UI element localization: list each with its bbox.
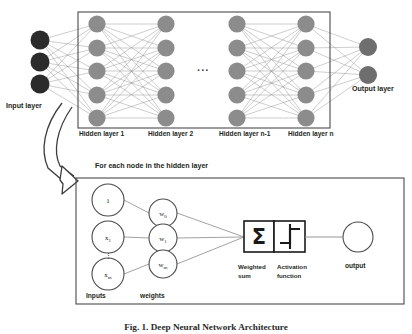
detail-output-node bbox=[343, 222, 373, 252]
hidden-layer-n-1-label: Hidden layer n-1 bbox=[219, 130, 270, 137]
vertical-dots: ⋮ bbox=[105, 252, 112, 260]
layers-ellipsis: ... bbox=[197, 61, 209, 73]
activation-label-line2: function bbox=[277, 273, 301, 280]
detail-edges-group bbox=[124, 200, 244, 274]
detail-input-node-0-label: 1 bbox=[106, 197, 110, 205]
sum-activation-block: Σ bbox=[244, 221, 305, 252]
weighted-sum-label-line2: sum bbox=[238, 273, 251, 280]
detail-output-label: output bbox=[345, 262, 366, 269]
output-layer-label: Output layer bbox=[352, 86, 394, 94]
weights-label: weights bbox=[140, 292, 165, 299]
callout-arrow bbox=[44, 103, 78, 194]
input-layer-label: Input layer bbox=[6, 103, 42, 111]
weighted-sum-label-line1: Weighted bbox=[238, 264, 266, 271]
detail-box-title: For each node in the hidden layer bbox=[95, 163, 208, 171]
activation-label-line1: Activation bbox=[277, 264, 307, 271]
hidden-layer-2-label: Hidden layer 2 bbox=[148, 130, 193, 137]
inputs-label: Inputs bbox=[86, 292, 106, 299]
sigma-icon: Σ bbox=[252, 225, 266, 249]
figure-caption: Fig. 1. Deep Neural Network Architecture bbox=[124, 322, 288, 332]
figure-caption-wrap: Fig. 1. Deep Neural Network Architecture bbox=[0, 316, 412, 334]
detail-nodes-group: 1x1xmw0w1wm⋮ bbox=[92, 184, 177, 290]
hidden-layer-1-label: Hidden layer 1 bbox=[79, 130, 124, 137]
hidden-layer-n-label: Hidden layer n bbox=[288, 130, 333, 137]
